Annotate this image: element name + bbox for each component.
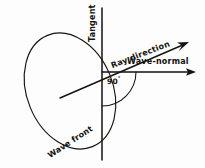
right-angle-value: 90 — [107, 77, 118, 86]
diagram-canvas — [0, 0, 205, 168]
wave-front-diagram: Tangent Ray direction Wave-normal Wave f… — [0, 0, 205, 168]
ray-direction-line — [60, 44, 185, 98]
degree-sign: ° — [118, 75, 121, 81]
right-angle-label: 90° — [107, 76, 121, 85]
tangent-label: Tangent — [89, 4, 97, 42]
wave-normal-label: Wave-normal — [127, 58, 189, 66]
